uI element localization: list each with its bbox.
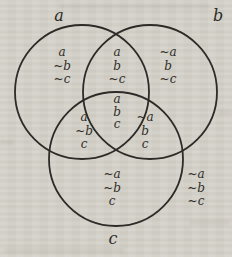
- region-line: ~b: [53, 59, 71, 73]
- region-line: b: [136, 124, 153, 138]
- region-line: b: [109, 59, 126, 73]
- circle-a-label: a: [54, 8, 64, 24]
- region-a-b-c: a b c: [113, 93, 121, 131]
- region-line: ~b: [75, 124, 93, 138]
- circle-c-label: c: [109, 231, 118, 247]
- region-line: c: [136, 138, 153, 152]
- region-line: ~a: [136, 111, 153, 125]
- region-line: ~c: [109, 73, 126, 87]
- region-line: ~a: [159, 46, 176, 60]
- region-line: ~b: [187, 181, 205, 195]
- region-line: c: [113, 118, 121, 131]
- circle-b-label: b: [213, 8, 223, 24]
- region-a-and-b: a b ~c: [109, 46, 126, 87]
- region-b-only: ~a b ~c: [159, 46, 176, 87]
- region-line: ~a: [103, 168, 121, 182]
- region-line: ~a: [187, 168, 205, 182]
- region-line: b: [159, 59, 176, 73]
- region-line: ~c: [159, 73, 176, 87]
- region-line: a: [53, 46, 71, 60]
- scanned-page: a b c a ~b ~c a b ~c ~a b ~c a ~b c a b …: [0, 0, 232, 257]
- region-line: c: [75, 138, 93, 152]
- region-outside: ~a ~b ~c: [187, 168, 205, 209]
- region-line: a: [75, 111, 93, 125]
- region-line: ~b: [103, 181, 121, 195]
- region-line: ~c: [187, 195, 205, 209]
- region-b-and-c: ~a b c: [136, 111, 153, 152]
- region-a-only: a ~b ~c: [53, 46, 71, 87]
- region-line: ~c: [53, 73, 71, 87]
- region-line: a: [109, 46, 126, 60]
- region-a-and-c: a ~b c: [75, 111, 93, 152]
- region-c-only: ~a ~b c: [103, 168, 121, 209]
- region-line: a: [113, 93, 121, 106]
- region-line: c: [103, 195, 121, 209]
